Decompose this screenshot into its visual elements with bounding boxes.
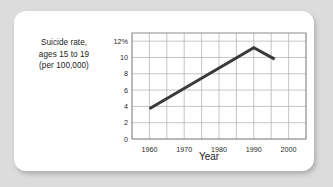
line-chart-figure: Suicide rate, ages 15 to 19 (per 100,000… [14, 11, 314, 171]
figure-card: Suicide rate, ages 15 to 19 (per 100,000… [14, 11, 314, 171]
y-tick-label: 12% [108, 37, 128, 46]
chart-plot-svg [110, 29, 308, 161]
y-axis-title-line-1: Suicide rate, [20, 37, 108, 49]
y-axis-title-line-3: (per 100,000) [20, 60, 108, 72]
y-tick-label: 0 [108, 135, 128, 144]
screenshot-root: Suicide rate, ages 15 to 19 (per 100,000… [0, 0, 333, 187]
y-tick-label: 2 [108, 118, 128, 127]
y-tick-label: 6 [108, 86, 128, 95]
y-axis-title: Suicide rate, ages 15 to 19 (per 100,000… [20, 37, 108, 72]
y-axis-title-line-2: ages 15 to 19 [20, 49, 108, 61]
y-tick-label: 4 [108, 102, 128, 111]
plot-area: 024681012% 19601970198019902000 [110, 29, 308, 161]
y-tick-label: 10 [108, 53, 128, 62]
x-axis-title: Year [110, 151, 308, 162]
y-tick-label: 8 [108, 69, 128, 78]
